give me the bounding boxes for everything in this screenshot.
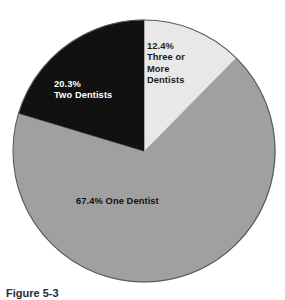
pie-label-two-dentists: 20.3% Two Dentists: [54, 79, 112, 102]
pie-label-one-dentist: 67.4% One Dentist: [76, 196, 159, 207]
pie-label-three-or-more-dentists: 12.4% Three or More Dentists: [147, 41, 185, 87]
figure-caption: Figure 5-3: [6, 287, 59, 300]
